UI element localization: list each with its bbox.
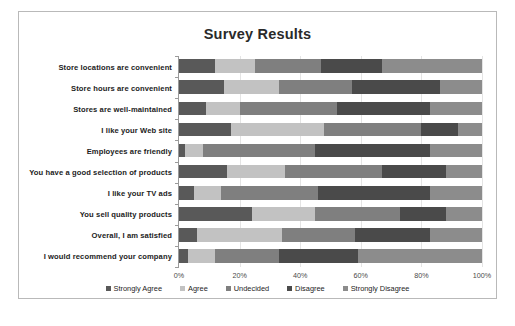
- x-tick-label: 80%: [414, 271, 428, 280]
- bar-segment: [188, 249, 215, 263]
- stacked-bar: [179, 102, 482, 116]
- bar-segment: [179, 207, 252, 221]
- x-tick-label: 20%: [232, 271, 246, 280]
- category-axis-tick: [175, 140, 179, 141]
- x-tick-label: 100%: [473, 271, 491, 280]
- bar-segment: [185, 144, 203, 158]
- bar-segment: [197, 228, 282, 242]
- stacked-bar: [179, 249, 482, 263]
- legend-label: Strongly Disagree: [351, 284, 410, 293]
- legend-swatch-icon: [180, 286, 185, 291]
- bar-row: Store locations are convenient: [179, 56, 482, 77]
- bar-segment: [221, 186, 318, 200]
- gridline: [482, 56, 483, 267]
- stacked-bar: [179, 80, 482, 94]
- bar-segment: [224, 80, 279, 94]
- legend-item[interactable]: Undecided: [226, 284, 269, 293]
- bar-segment: [179, 102, 206, 116]
- bar-segment: [430, 102, 482, 116]
- bar-segment: [355, 228, 431, 242]
- bar-segment: [179, 80, 224, 94]
- category-label: Overall, I am satisfied: [92, 231, 172, 240]
- category-label: You have a good selection of products: [29, 168, 172, 177]
- bar-segment: [315, 207, 400, 221]
- bar-segment: [458, 123, 482, 137]
- category-axis-tick: [175, 225, 179, 226]
- category-label: I like your TV ads: [108, 189, 172, 198]
- bar-segment: [337, 102, 431, 116]
- category-axis-tick: [175, 119, 179, 120]
- bar-segment: [203, 144, 315, 158]
- chart-plot-area: Store locations are convenientStore hour…: [179, 56, 482, 267]
- stacked-bar: [179, 165, 482, 179]
- bar-row: I like your TV ads: [179, 183, 482, 204]
- category-label: Stores are well-maintained: [73, 104, 172, 113]
- legend-item[interactable]: Strongly Agree: [106, 284, 162, 293]
- bar-segment: [358, 249, 482, 263]
- bar-segment: [279, 249, 358, 263]
- bar-segment: [352, 80, 440, 94]
- bar-segment: [179, 249, 188, 263]
- bar-row: Employees are friendly: [179, 140, 482, 161]
- bar-segment: [215, 59, 254, 73]
- bar-segment: [421, 123, 457, 137]
- bar-segment: [179, 228, 197, 242]
- bar-segment: [321, 59, 382, 73]
- bar-row: I like your Web site: [179, 119, 482, 140]
- stacked-bar: [179, 123, 482, 137]
- legend-swatch-icon: [343, 286, 348, 291]
- legend-item[interactable]: Agree: [180, 284, 208, 293]
- legend-swatch-icon: [106, 286, 111, 291]
- stacked-bar: [179, 207, 482, 221]
- legend-label: Strongly Agree: [114, 284, 162, 293]
- bar-segment: [430, 186, 482, 200]
- bar-segment: [179, 165, 227, 179]
- chart-frame: Survey Results Store locations are conve…: [18, 11, 497, 299]
- legend-label: Disagree: [295, 284, 325, 293]
- category-axis-tick: [175, 183, 179, 184]
- stacked-bar: [179, 144, 482, 158]
- bar-segment: [231, 123, 325, 137]
- category-label: You sell quality products: [80, 210, 172, 219]
- bar-segment: [285, 165, 382, 179]
- legend-label: Agree: [188, 284, 208, 293]
- bar-segment: [440, 80, 482, 94]
- stacked-bar: [179, 186, 482, 200]
- bar-segment: [179, 123, 231, 137]
- category-axis-tick: [175, 98, 179, 99]
- bar-segment: [179, 186, 194, 200]
- category-axis-tick: [175, 162, 179, 163]
- bar-segment: [382, 59, 482, 73]
- bar-row: You have a good selection of products: [179, 162, 482, 183]
- chart-legend: Strongly AgreeAgreeUndecidedDisagreeStro…: [19, 284, 496, 293]
- bar-segment: [282, 228, 355, 242]
- x-tick-label: 0%: [174, 271, 184, 280]
- bar-segment: [279, 80, 352, 94]
- category-label: Employees are friendly: [87, 146, 172, 155]
- category-axis-tick: [175, 56, 179, 57]
- stacked-bar: [179, 59, 482, 73]
- bar-segment: [227, 165, 285, 179]
- bar-segment: [382, 165, 446, 179]
- bar-row: Store hours are convenient: [179, 77, 482, 98]
- bar-segment: [446, 165, 482, 179]
- category-axis-tick: [175, 267, 179, 268]
- legend-item[interactable]: Disagree: [287, 284, 325, 293]
- legend-item[interactable]: Strongly Disagree: [343, 284, 410, 293]
- bar-segment: [430, 144, 482, 158]
- bar-segment: [194, 186, 221, 200]
- bar-segment: [240, 102, 337, 116]
- legend-label: Undecided: [234, 284, 269, 293]
- legend-swatch-icon: [287, 286, 292, 291]
- category-axis-tick: [175, 77, 179, 78]
- category-label: I would recommend your company: [44, 252, 172, 261]
- bar-row: You sell quality products: [179, 204, 482, 225]
- category-axis-tick: [175, 246, 179, 247]
- category-label: I like your Web site: [101, 125, 172, 134]
- chart-title: Survey Results: [19, 26, 496, 42]
- bar-row: I would recommend your company: [179, 246, 482, 267]
- bar-segment: [430, 228, 482, 242]
- bar-segment: [206, 102, 239, 116]
- x-axis-tick-labels: 0%20%40%60%80%100%: [179, 271, 482, 283]
- stacked-bar: [179, 228, 482, 242]
